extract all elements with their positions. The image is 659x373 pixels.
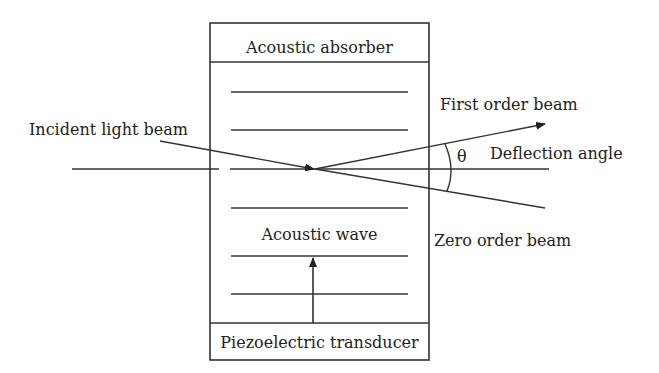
acoustic-wavefronts: [231, 92, 408, 294]
absorber-label: Acoustic absorber: [245, 38, 393, 57]
incident-beam-arrow: [160, 141, 314, 169]
zero-order-beam: [315, 169, 545, 208]
transducer-label: Piezoelectric transducer: [220, 333, 419, 352]
crystal-box: [210, 23, 429, 360]
incident-beam-label: Incident light beam: [29, 120, 188, 139]
first-order-beam-label: First order beam: [440, 95, 578, 114]
acousto-optic-diagram: Acoustic absorber Incident light beam Fi…: [0, 0, 659, 373]
theta-symbol: θ: [457, 147, 467, 166]
deflection-angle-label: Deflection angle: [490, 144, 623, 163]
zero-order-beam-label: Zero order beam: [434, 231, 571, 250]
deflection-angle-arc: [445, 144, 451, 191]
acoustic-wave-label: Acoustic wave: [261, 225, 378, 244]
